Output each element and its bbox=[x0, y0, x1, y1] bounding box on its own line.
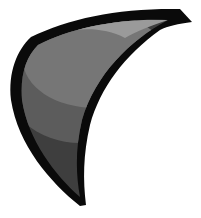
claw-icon bbox=[0, 0, 201, 218]
